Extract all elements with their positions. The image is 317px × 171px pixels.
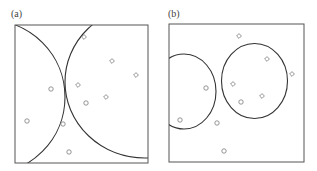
circle-marker	[61, 122, 65, 126]
circle-marker	[84, 101, 88, 105]
cluster-boundary-1	[152, 54, 216, 129]
diamond-marker	[231, 82, 236, 87]
panel-b	[152, 24, 304, 162]
circle-marker	[25, 119, 29, 123]
cluster-boundary-2	[222, 44, 288, 119]
panel-frame	[15, 25, 148, 163]
panel-frame	[169, 24, 304, 162]
diamond-marker	[290, 72, 295, 77]
circle-marker	[215, 121, 219, 125]
circle-marker	[222, 149, 226, 153]
circle-marker	[239, 100, 243, 104]
circle-marker	[204, 86, 208, 90]
diamond-marker	[76, 83, 81, 88]
diamond-marker	[104, 95, 109, 100]
cluster-boundary-2	[65, 6, 225, 158]
circle-marker	[178, 118, 182, 122]
diagram-canvas	[0, 0, 317, 171]
circle-marker	[49, 87, 53, 91]
diamond-marker	[265, 57, 270, 62]
diamond-marker	[110, 59, 115, 64]
diamond-marker	[134, 73, 139, 78]
diamond-marker	[237, 34, 242, 39]
diamond-marker	[260, 94, 265, 99]
circle-marker	[67, 150, 71, 154]
panel-a	[0, 6, 225, 171]
cluster-boundary-1	[0, 20, 65, 171]
